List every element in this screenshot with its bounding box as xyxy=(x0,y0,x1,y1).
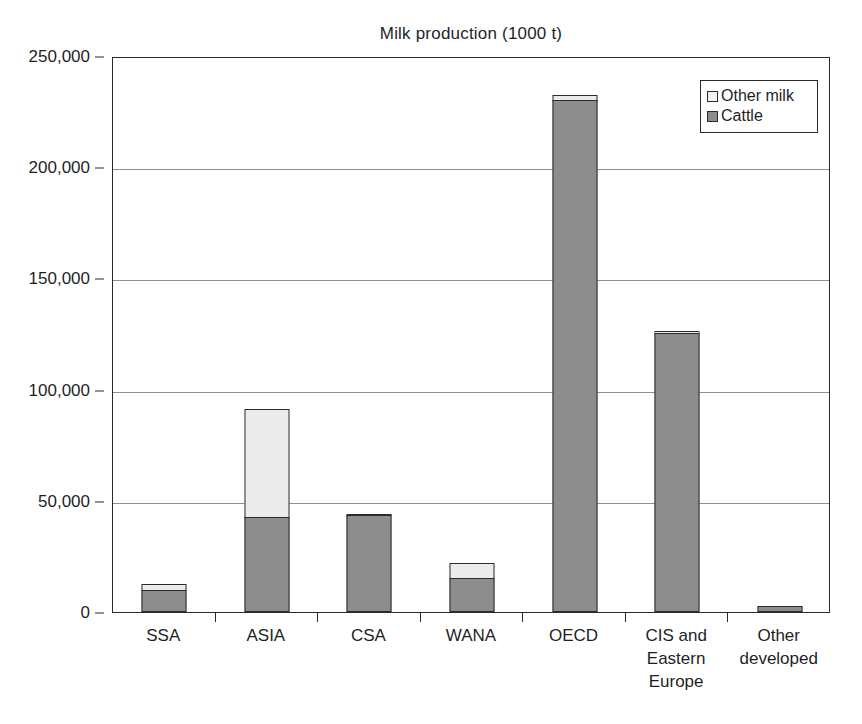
x-axis-category-label: WANA xyxy=(420,624,523,647)
bar-stack[interactable] xyxy=(142,584,187,612)
x-axis-category-line: Other xyxy=(727,624,830,647)
x-axis-tick-mark xyxy=(522,613,523,622)
legend-swatch-icon xyxy=(707,91,718,102)
x-axis-category-line: SSA xyxy=(112,624,215,647)
bar-segment-cattle[interactable] xyxy=(244,517,289,612)
x-axis-category-line: Eastern xyxy=(625,647,728,670)
y-axis-tick-mark xyxy=(95,168,104,169)
x-axis-category-line: ASIA xyxy=(215,624,318,647)
legend-label: Other milk xyxy=(721,87,794,105)
legend-swatch-icon xyxy=(707,111,718,122)
chart-title: Milk production (1000 t) xyxy=(112,24,830,44)
x-axis-category-line: Europe xyxy=(625,670,728,693)
y-axis-tick-mark xyxy=(95,613,104,614)
y-axis-tick-label: 150,000 xyxy=(29,269,90,289)
x-axis-tick-mark xyxy=(727,613,728,622)
y-axis: 250,000200,000150,000100,00050,0000 xyxy=(0,57,104,613)
x-axis-category-line: developed xyxy=(727,647,830,670)
y-axis-tick-mark xyxy=(95,390,104,391)
x-axis-category-label: ASIA xyxy=(215,624,318,647)
legend-label: Cattle xyxy=(721,107,763,125)
bar-group[interactable] xyxy=(626,58,729,612)
bar-segment-cattle[interactable] xyxy=(552,100,597,612)
y-axis-tick-label: 100,000 xyxy=(29,381,90,401)
x-axis-tick-mark xyxy=(625,613,626,622)
y-axis-tick-label: 0 xyxy=(81,603,90,623)
bar-segment-cattle[interactable] xyxy=(347,515,392,612)
legend-item[interactable]: Other milk xyxy=(707,86,811,106)
x-axis-category-label: CSA xyxy=(317,624,420,647)
x-axis-labels: SSAASIACSAWANAOECDCIS andEasternEuropeOt… xyxy=(112,624,830,719)
x-axis-tick-mark xyxy=(215,613,216,622)
y-axis-tick-label: 50,000 xyxy=(38,492,90,512)
bar-group[interactable] xyxy=(728,58,831,612)
y-axis-tick-mark xyxy=(95,501,104,502)
x-axis-category-label: CIS andEasternEurope xyxy=(625,624,728,693)
bar-group[interactable] xyxy=(113,58,216,612)
bar-stack[interactable] xyxy=(449,563,494,612)
bar-group[interactable] xyxy=(216,58,319,612)
x-axis-category-label: OECD xyxy=(522,624,625,647)
bar-segment-cattle[interactable] xyxy=(449,578,494,612)
y-axis-tick-mark xyxy=(95,279,104,280)
bar-group[interactable] xyxy=(523,58,626,612)
y-axis-tick-label: 250,000 xyxy=(29,47,90,67)
bar-stack[interactable] xyxy=(757,606,802,612)
bar-stack[interactable] xyxy=(552,95,597,612)
x-axis-category-line: CIS and xyxy=(625,624,728,647)
x-axis-category-label: Otherdeveloped xyxy=(727,624,830,670)
legend-item[interactable]: Cattle xyxy=(707,106,811,126)
bar-segment-cattle[interactable] xyxy=(142,590,187,612)
x-axis-category-label: SSA xyxy=(112,624,215,647)
y-axis-tick-mark xyxy=(95,57,104,58)
x-axis-category-line: WANA xyxy=(420,624,523,647)
bar-stack[interactable] xyxy=(347,514,392,612)
bar-group[interactable] xyxy=(318,58,421,612)
x-axis-tick-mark xyxy=(317,613,318,622)
bar-group[interactable] xyxy=(421,58,524,612)
y-axis-tick-label: 200,000 xyxy=(29,158,90,178)
x-axis-ticks xyxy=(112,613,830,623)
x-axis-tick-mark xyxy=(420,613,421,622)
bar-segment-cattle[interactable] xyxy=(757,606,802,612)
chart-container: Milk production (1000 t) 250,000200,0001… xyxy=(0,0,862,724)
chart-legend: Other milkCattle xyxy=(700,80,818,133)
x-axis-category-line: OECD xyxy=(522,624,625,647)
bar-stack[interactable] xyxy=(244,409,289,612)
bar-segment-cattle[interactable] xyxy=(655,333,700,612)
x-axis-category-line: CSA xyxy=(317,624,420,647)
plot-area xyxy=(112,57,830,613)
bar-stack[interactable] xyxy=(655,331,700,612)
bar-segment-other-milk[interactable] xyxy=(244,409,289,519)
